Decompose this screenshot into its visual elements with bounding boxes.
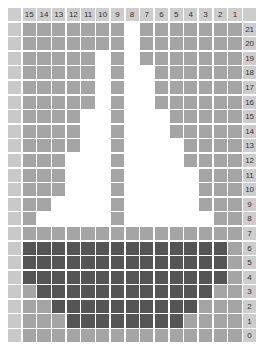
stitch-dark (140, 285, 153, 298)
stitch-medium (228, 285, 241, 298)
stitch-medium (52, 314, 65, 327)
stitch-medium (23, 183, 36, 196)
row-margin-cell (8, 81, 21, 94)
stitch-dark (126, 314, 139, 327)
row-label: 15 (243, 110, 256, 123)
stitch-medium (23, 212, 36, 225)
stitch-medium (37, 154, 50, 167)
stitch-medium (52, 227, 65, 240)
stitch-empty (126, 81, 139, 94)
stitch-medium (170, 329, 183, 342)
stitch-dark (52, 242, 65, 255)
row-margin-cell (8, 125, 21, 138)
stitch-empty (96, 212, 109, 225)
stitch-medium (67, 139, 80, 152)
row-label: 4 (243, 271, 256, 284)
stitch-dark (184, 271, 197, 284)
stitch-medium (184, 110, 197, 123)
column-label: 11 (81, 8, 94, 21)
stitch-medium (23, 52, 36, 65)
stitch-medium (23, 300, 36, 313)
stitch-medium (37, 125, 50, 138)
stitch-medium (214, 183, 227, 196)
stitch-dark (170, 242, 183, 255)
stitch-medium (228, 96, 241, 109)
stitch-empty (155, 212, 168, 225)
stitch-medium (199, 227, 212, 240)
stitch-medium (228, 154, 241, 167)
stitch-medium (184, 23, 197, 36)
stitch-medium (214, 212, 227, 225)
stitch-medium (140, 329, 153, 342)
stitch-dark (96, 256, 109, 269)
stitch-medium (111, 183, 124, 196)
column-label: 12 (67, 8, 80, 21)
stitch-medium (67, 125, 80, 138)
stitch-medium (170, 23, 183, 36)
stitch-medium (184, 81, 197, 94)
stitch-medium (23, 227, 36, 240)
row-margin-cell (8, 314, 21, 327)
stitch-empty (126, 37, 139, 50)
stitch-medium (52, 154, 65, 167)
stitch-medium (52, 125, 65, 138)
stitch-medium (96, 329, 109, 342)
stitch-empty (67, 212, 80, 225)
stitch-empty (199, 212, 212, 225)
row-margin-cell (8, 66, 21, 79)
stitch-medium (67, 52, 80, 65)
stitch-medium (170, 37, 183, 50)
stitch-empty (140, 139, 153, 152)
stitch-dark (170, 314, 183, 327)
stitch-medium (214, 285, 227, 298)
stitch-medium (23, 329, 36, 342)
stitch-medium (81, 96, 94, 109)
stitch-dark (214, 256, 227, 269)
stitch-medium (111, 110, 124, 123)
row-margin-cell (8, 285, 21, 298)
stitch-medium (214, 314, 227, 327)
stitch-dark (155, 314, 168, 327)
stitch-medium (214, 329, 227, 342)
stitch-dark (23, 271, 36, 284)
stitch-medium (184, 154, 197, 167)
stitch-medium (228, 110, 241, 123)
stitch-dark (155, 300, 168, 313)
stitch-empty (155, 183, 168, 196)
stitch-empty (81, 198, 94, 211)
stitch-medium (37, 329, 50, 342)
stitch-empty (155, 169, 168, 182)
row-margin-cell (8, 329, 21, 342)
stitch-medium (170, 52, 183, 65)
stitch-dark (81, 271, 94, 284)
stitch-medium (155, 52, 168, 65)
stitch-medium (184, 66, 197, 79)
stitch-empty (170, 169, 183, 182)
stitch-medium (214, 154, 227, 167)
stitch-medium (228, 52, 241, 65)
stitch-medium (184, 37, 197, 50)
stitch-medium (155, 37, 168, 50)
stitch-empty (81, 110, 94, 123)
stitch-empty (37, 212, 50, 225)
stitch-empty (52, 212, 65, 225)
stitch-empty (52, 198, 65, 211)
stitch-medium (228, 23, 241, 36)
stitch-empty (140, 125, 153, 138)
stitch-dark (199, 285, 212, 298)
stitch-dark (184, 256, 197, 269)
stitch-dark (155, 242, 168, 255)
stitch-dark (126, 285, 139, 298)
stitch-dark (67, 314, 80, 327)
stitch-empty (126, 183, 139, 196)
stitch-medium (170, 125, 183, 138)
stitch-medium (111, 212, 124, 225)
stitch-medium (199, 198, 212, 211)
stitch-medium (37, 52, 50, 65)
stitch-empty (67, 198, 80, 211)
stitch-medium (170, 96, 183, 109)
stitch-medium (111, 169, 124, 182)
stitch-empty (126, 169, 139, 182)
stitch-medium (170, 227, 183, 240)
stitch-medium (184, 227, 197, 240)
